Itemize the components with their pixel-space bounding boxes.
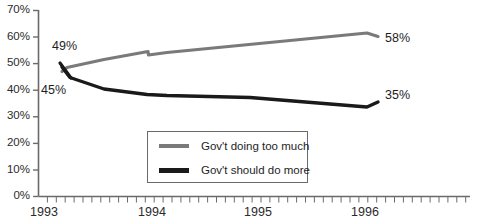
x-axis-minor-ticks: [47, 197, 465, 203]
series-line-govt-should-do-more: [62, 67, 378, 107]
annotation-35-percent: 35%: [385, 88, 410, 102]
legend-item-govt-should-do-more: Gov't should do more: [148, 157, 307, 183]
line-chart: 70% 60% 50% 40% 30% 20% 10% 0% 1993 1994…: [0, 0, 486, 223]
y-tick-label-10: 10%: [0, 163, 30, 175]
y-axis-ticks: [33, 11, 39, 197]
chart-legend: Gov't doing too much Gov't should do mor…: [147, 131, 308, 183]
y-tick-label-50: 50%: [0, 56, 30, 68]
x-tick-label-1995: 1995: [228, 205, 288, 219]
y-tick-label-20: 20%: [0, 136, 30, 148]
legend-swatch-black-line-icon: [159, 168, 189, 173]
y-tick-label-30: 30%: [0, 109, 30, 121]
y-tick-label-0: 0%: [0, 189, 30, 201]
series-line-govt-doing-too-much: [62, 33, 378, 72]
x-tick-label-1993: 1993: [14, 205, 74, 219]
y-tick-label-70: 70%: [0, 3, 30, 15]
annotation-45-percent: 45%: [41, 83, 66, 97]
annotation-58-percent: 58%: [385, 31, 410, 45]
chart-plot-area: [0, 0, 486, 223]
x-tick-label-1996: 1996: [335, 205, 395, 219]
legend-item-govt-doing-too-much: Gov't doing too much: [148, 133, 307, 159]
x-tick-label-1994: 1994: [122, 205, 182, 219]
legend-label-govt-doing-too-much: Gov't doing too much: [201, 140, 309, 152]
y-tick-label-40: 40%: [0, 83, 30, 95]
y-tick-label-60: 60%: [0, 30, 30, 42]
annotation-49-percent: 49%: [52, 39, 77, 53]
legend-label-govt-should-do-more: Gov't should do more: [201, 164, 310, 176]
legend-swatch-gray-line-icon: [159, 144, 189, 148]
